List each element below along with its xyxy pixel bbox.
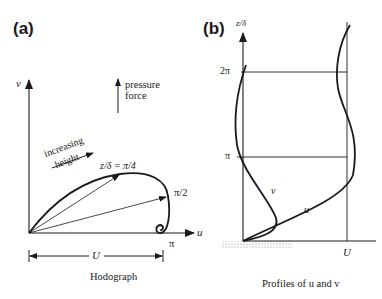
- panel-b-profiles: [222, 22, 376, 249]
- v-curve-label: v: [271, 185, 275, 196]
- tick-pi-label: π: [225, 150, 230, 161]
- hodograph-caption: Hodograph: [90, 271, 137, 282]
- U-label-a: U: [92, 249, 100, 261]
- pressure-label-line1: pressure: [125, 79, 160, 90]
- pi-label-a: π: [169, 238, 174, 249]
- pressure-label-line2: force: [125, 90, 160, 101]
- pi2-label: π/2: [174, 187, 187, 198]
- hodograph-curve: [29, 173, 169, 233]
- panel-b-label: (b): [203, 19, 225, 39]
- vector-pi4: [29, 175, 119, 233]
- profiles-caption: Profiles of u and v: [262, 278, 340, 289]
- tick-2pi-label: 2π: [220, 65, 230, 76]
- u-curve-label: u: [304, 204, 309, 215]
- u-axis-label: u: [197, 226, 203, 238]
- ground-hatch: [222, 241, 292, 249]
- pressure-label: pressure force: [125, 79, 160, 101]
- panel-a-label: (a): [13, 19, 34, 39]
- z-axis-label: z/δ: [236, 18, 246, 28]
- vector-pi2: [29, 197, 166, 233]
- U-label-b: U: [343, 246, 351, 258]
- v-profile-curve: [235, 65, 276, 241]
- u-profile-curve: [243, 25, 355, 241]
- v-axis-label: v: [16, 77, 21, 89]
- pi4-label: z/δ = π/4: [100, 160, 136, 171]
